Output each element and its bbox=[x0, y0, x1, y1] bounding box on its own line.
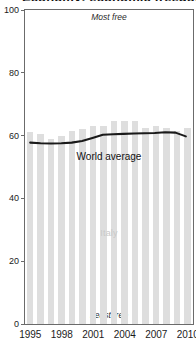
x-axis-tick-label: 2010 bbox=[177, 329, 196, 340]
x-axis-tick-label: 1995 bbox=[19, 329, 41, 340]
line-series-world-average bbox=[25, 10, 193, 324]
y-axis-tick-label: 20 bbox=[0, 257, 19, 266]
y-axis-tick-label: 60 bbox=[0, 131, 19, 140]
y-axis-tick bbox=[21, 198, 24, 199]
y-axis-tick bbox=[21, 324, 24, 325]
chart-title-text: Economy: economic freedom bbox=[22, 0, 196, 1]
x-axis-tick-label: 2001 bbox=[82, 329, 104, 340]
plot-area: Most free Least free Italy World average bbox=[24, 9, 194, 325]
chart-root: Economy: economic freedom Most free Leas… bbox=[0, 0, 196, 352]
y-axis-tick-label: 80 bbox=[0, 68, 19, 77]
y-axis-tick bbox=[21, 261, 24, 262]
series-label-world-average: World average bbox=[25, 151, 193, 162]
y-axis-tick bbox=[21, 10, 24, 11]
x-axis-tick-label: 2004 bbox=[114, 329, 136, 340]
x-axis-tick-label: 1998 bbox=[51, 329, 73, 340]
y-axis-tick bbox=[21, 72, 24, 73]
y-axis-tick-label: 100 bbox=[0, 6, 19, 15]
y-axis-tick-label: 0 bbox=[0, 320, 19, 329]
y-axis-tick-label: 40 bbox=[0, 194, 19, 203]
x-axis-tick-label: 2007 bbox=[145, 329, 167, 340]
y-axis-tick bbox=[21, 135, 24, 136]
chart-title-clipped: Economy: economic freedom bbox=[22, 0, 196, 1]
